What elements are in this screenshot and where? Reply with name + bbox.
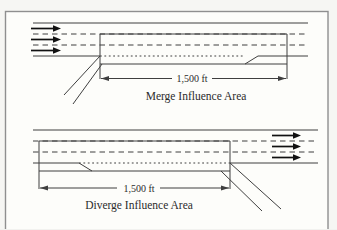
- diverge-dimension-label: 1,500 ft: [123, 183, 154, 194]
- influence-area-figure: 1,500 ft Merge Influence Area: [0, 0, 337, 229]
- merge-title: Merge Influence Area: [146, 90, 247, 103]
- merge-dimension-label: 1,500 ft: [176, 73, 207, 84]
- figure-frame: [6, 12, 329, 230]
- figure-canvas: 1,500 ft Merge Influence Area: [0, 0, 337, 229]
- diverge-title: Diverge Influence Area: [85, 199, 193, 212]
